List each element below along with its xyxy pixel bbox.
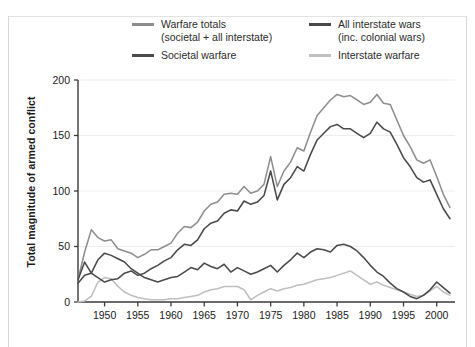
legend-label-societal-warfare: Societal warfare xyxy=(161,49,236,62)
y-axis-label: Total magnitude of armed conflict xyxy=(25,77,37,287)
plot-area: Total magnitude of armed conflict 050100… xyxy=(0,70,475,347)
legend-label-warfare-totals-sub: (societal + all interstate) xyxy=(161,31,272,44)
legend-item-societal-warfare: Societal warfare xyxy=(132,49,236,62)
chart-canvas: 050100150200 195019551960196519701975198… xyxy=(0,70,475,347)
x-tick-label: 1985 xyxy=(325,309,349,321)
x-tick-label: 1955 xyxy=(126,309,150,321)
y-tick-label: 150 xyxy=(52,129,70,141)
x-tick-label: 1975 xyxy=(259,309,283,321)
gridlines xyxy=(78,80,455,247)
chart-legend: Warfare totals (societal + all interstat… xyxy=(132,18,462,68)
legend-label-warfare-totals-main: Warfare totals xyxy=(161,18,226,30)
legend-swatch-interstate-warfare xyxy=(309,54,331,57)
legend-item-interstate-warfare: Interstate warfare xyxy=(309,49,420,62)
legend-label-all-interstate-wars-main: All interstate wars xyxy=(338,18,421,30)
y-tick-label: 100 xyxy=(52,185,70,197)
x-tick-label: 1995 xyxy=(392,309,416,321)
x-tick-label: 1990 xyxy=(359,309,383,321)
series-line-all-interstate-wars-inc-colonial-wars xyxy=(78,244,450,298)
legend-label-warfare-totals: Warfare totals (societal + all interstat… xyxy=(161,18,272,43)
chart-figure: Warfare totals (societal + all interstat… xyxy=(0,0,475,347)
y-tick-label: 0 xyxy=(64,296,70,308)
legend-swatch-societal-warfare xyxy=(132,54,154,57)
y-tick-label: 50 xyxy=(58,240,70,252)
legend-label-all-interstate-wars-sub: (inc. colonial wars) xyxy=(338,31,425,44)
x-tick-label: 2000 xyxy=(425,309,449,321)
y-tick-label: 200 xyxy=(52,74,70,86)
legend-item-all-interstate-wars: All interstate wars (inc. colonial wars) xyxy=(309,18,425,43)
legend-swatch-warfare-totals xyxy=(132,23,154,26)
x-tick-label: 1950 xyxy=(93,309,117,321)
x-tick-label: 1960 xyxy=(159,309,183,321)
legend-item-warfare-totals: Warfare totals (societal + all interstat… xyxy=(132,18,272,43)
legend-label-interstate-warfare: Interstate warfare xyxy=(338,49,420,62)
x-tick-label: 1965 xyxy=(193,309,217,321)
series-line-warfare-totals-societal-all-interstate xyxy=(78,94,450,279)
x-tick-label: 1970 xyxy=(226,309,250,321)
series-line-societal-warfare xyxy=(78,122,450,283)
legend-label-all-interstate-wars: All interstate wars (inc. colonial wars) xyxy=(338,18,425,43)
figure-top-border xyxy=(8,16,467,17)
y-axis-ticks: 050100150200 xyxy=(52,74,78,308)
x-tick-label: 1980 xyxy=(292,309,316,321)
legend-swatch-all-interstate-wars xyxy=(309,23,331,26)
x-axis-ticks: 1950195519601965197019751980198519901995… xyxy=(93,302,449,321)
data-series xyxy=(78,94,450,302)
